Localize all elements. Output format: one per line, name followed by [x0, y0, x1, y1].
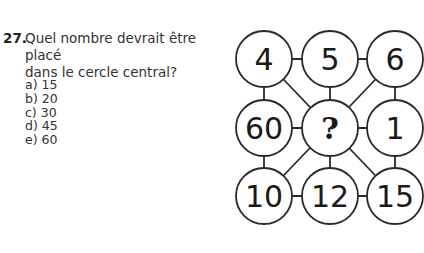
- circle-value: 1: [385, 111, 404, 146]
- circle-value: 4: [254, 42, 273, 77]
- circle-value-unknown: ?: [321, 111, 339, 146]
- circle-value: 15: [376, 179, 414, 214]
- circle-value: 6: [385, 42, 404, 77]
- circle-value: 10: [245, 179, 283, 214]
- circle-value: 12: [311, 179, 349, 214]
- circle-value: 60: [245, 111, 283, 146]
- circle-value: 5: [320, 42, 339, 77]
- circle-puzzle-diagram: 4 5 6 60 ? 1 10 12 15: [0, 0, 424, 253]
